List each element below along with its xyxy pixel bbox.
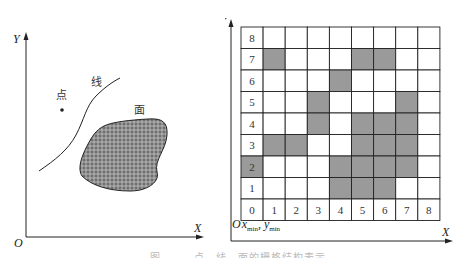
grid-cell — [307, 135, 329, 157]
grid-cell — [329, 135, 351, 157]
row-label: 3 — [249, 139, 255, 151]
filled-cell — [307, 113, 329, 135]
grid-cell — [352, 92, 374, 114]
grid-cell — [418, 113, 440, 135]
grid-cell — [418, 156, 440, 178]
grid-cell — [307, 27, 329, 49]
grid-cell — [329, 49, 351, 71]
grid-cell — [352, 27, 374, 49]
grid-cell — [329, 27, 351, 49]
origin-label: O — [14, 236, 23, 250]
column-label: 6 — [382, 204, 388, 216]
x-axis-arrow-icon — [196, 235, 204, 240]
grid-cell — [418, 135, 440, 157]
grid-cell — [396, 70, 418, 92]
grid-cell — [396, 178, 418, 200]
column-label: 3 — [316, 204, 322, 216]
grid-cell — [418, 49, 440, 71]
line-label: 线 — [91, 75, 102, 89]
row-label: 8 — [249, 32, 255, 44]
grid-cell — [374, 70, 396, 92]
filled-cell — [352, 113, 374, 135]
column-label: 8 — [426, 204, 432, 216]
row-label: 1 — [249, 182, 255, 194]
y-axis-arrow-icon — [24, 32, 29, 40]
filled-cell — [374, 156, 396, 178]
vector-diagram: Y X O 点 线 面 — [0, 0, 225, 258]
grid-cell — [418, 27, 440, 49]
filled-cell — [374, 178, 396, 200]
column-label: 1 — [271, 204, 277, 216]
filled-cell — [352, 178, 374, 200]
grid-cell — [263, 70, 285, 92]
raster-grid: 87654321012345678 — [241, 27, 440, 221]
grid-cell — [352, 70, 374, 92]
grid-cell — [263, 156, 285, 178]
row-label: 5 — [249, 96, 255, 108]
filled-cell — [329, 156, 351, 178]
grid-cell — [374, 27, 396, 49]
filled-cell — [307, 92, 329, 114]
filled-cell — [352, 49, 374, 71]
column-label: 7 — [404, 204, 410, 216]
filled-cell — [352, 135, 374, 157]
y-axis-label: Y — [13, 32, 21, 46]
grid-cell — [285, 27, 307, 49]
filled-cell — [374, 113, 396, 135]
filled-cell — [396, 156, 418, 178]
point-label: 点 — [56, 89, 67, 102]
grid-cell — [263, 92, 285, 114]
grid-cell — [307, 156, 329, 178]
grid-cell — [396, 49, 418, 71]
grid-cell — [418, 92, 440, 114]
grid-cell — [285, 178, 307, 200]
grid-cell — [307, 49, 329, 71]
point-feature — [60, 108, 64, 112]
row-label: 2 — [249, 161, 255, 173]
filled-cell — [396, 92, 418, 114]
grid-cell — [396, 27, 418, 49]
grid-cell — [285, 92, 307, 114]
grid-cell — [329, 113, 351, 135]
filled-cell — [352, 156, 374, 178]
filled-cell — [396, 135, 418, 157]
grid-cell — [285, 156, 307, 178]
raster-diagram: Y X Oxmin, ymin 87654321012345678 — [225, 0, 462, 258]
grid-cell — [263, 27, 285, 49]
filled-cell — [374, 49, 396, 71]
column-label: 2 — [294, 204, 300, 216]
area-feature — [80, 119, 167, 191]
filled-cell — [396, 113, 418, 135]
filled-cell — [263, 135, 285, 157]
column-label: 5 — [360, 204, 366, 216]
grid-cell — [374, 92, 396, 114]
row-label: 7 — [249, 53, 255, 65]
x-axis-label: X — [193, 221, 202, 235]
row-label: 6 — [249, 75, 255, 87]
grid-cell — [263, 178, 285, 200]
filled-cell — [374, 135, 396, 157]
figure-caption: 图 点、线、面的栅格结构表示 — [150, 250, 350, 258]
grid-cell — [418, 70, 440, 92]
grid-cell — [285, 49, 307, 71]
grid-cell — [307, 70, 329, 92]
filled-cell — [329, 70, 351, 92]
area-label: 面 — [134, 104, 145, 117]
y-axis-arrow-icon — [229, 19, 234, 27]
grid-cell — [418, 178, 440, 200]
grid-cell — [263, 113, 285, 135]
x-axis-arrow-icon — [445, 239, 453, 244]
grid-cell — [329, 92, 351, 114]
row-label: 0 — [249, 204, 255, 216]
row-label: 4 — [249, 118, 255, 130]
filled-cell — [263, 49, 285, 71]
filled-cell — [329, 178, 351, 200]
x-axis-label: X — [441, 225, 450, 239]
grid-cell — [307, 178, 329, 200]
column-label: 4 — [338, 204, 344, 216]
y-axis-label: Y — [225, 15, 227, 29]
grid-cell — [285, 113, 307, 135]
filled-cell — [285, 135, 307, 157]
grid-cell — [285, 70, 307, 92]
